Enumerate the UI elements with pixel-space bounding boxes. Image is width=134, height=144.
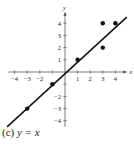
graph: xy −4−3−21234−4−3−21234 bbox=[0, 0, 134, 144]
x-tick-label: −4 bbox=[11, 75, 19, 82]
y-tick-label: 4 bbox=[58, 20, 62, 27]
data-point bbox=[75, 58, 79, 62]
caption-label: (c) bbox=[2, 126, 14, 138]
x-tick-label: −3 bbox=[24, 75, 31, 82]
x-tick-label: 2 bbox=[89, 75, 92, 82]
x-tick-label: −2 bbox=[36, 75, 43, 82]
y-axis-label: y bbox=[62, 4, 66, 11]
y-tick-label: 2 bbox=[58, 44, 61, 51]
y-tick-label: 3 bbox=[58, 32, 61, 39]
data-point bbox=[101, 21, 105, 25]
x-tick-label: 3 bbox=[101, 75, 104, 82]
caption: (c) y = x bbox=[2, 126, 40, 138]
data-point bbox=[101, 45, 105, 49]
data-point bbox=[25, 106, 29, 110]
x-axis-arrow-icon bbox=[123, 71, 127, 74]
x-tick-label: 4 bbox=[114, 75, 118, 82]
y-tick-label: −2 bbox=[54, 93, 61, 100]
y-tick-label: −4 bbox=[54, 117, 62, 124]
x-tick-label: 1 bbox=[76, 75, 79, 82]
data-point bbox=[50, 82, 54, 86]
y-axis-arrow-icon bbox=[64, 12, 67, 16]
x-axis-label: x bbox=[128, 68, 132, 75]
y-tick-label: 1 bbox=[58, 56, 61, 63]
data-point bbox=[113, 21, 117, 25]
y-tick-label: −3 bbox=[54, 105, 61, 112]
caption-equation: y = x bbox=[17, 126, 40, 138]
